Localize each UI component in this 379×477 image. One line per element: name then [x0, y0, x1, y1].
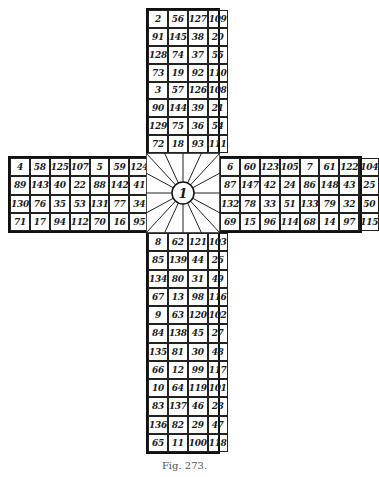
- board-square: 105: [280, 158, 300, 176]
- board-square: 7: [300, 158, 320, 176]
- board-square: 15: [240, 213, 260, 231]
- board-square: 111: [208, 135, 228, 153]
- board-square: 9: [148, 306, 168, 324]
- board-square: 42: [260, 176, 280, 194]
- board-square: 28: [208, 397, 228, 415]
- board-square: 115: [359, 213, 379, 231]
- board-square: 110: [208, 64, 228, 82]
- figure-caption: Fig. 273.: [0, 460, 369, 471]
- board-square: 123: [260, 158, 280, 176]
- board-square: 92: [188, 64, 208, 82]
- board-square: 61: [319, 158, 339, 176]
- board-square: 126: [188, 82, 208, 100]
- board-square: 121: [188, 233, 208, 251]
- board-square: 71: [10, 213, 30, 231]
- board-square: 84: [148, 324, 168, 342]
- center-number-label: 1: [146, 153, 220, 233]
- board-square: 27: [208, 324, 228, 342]
- board-square: 60: [240, 158, 260, 176]
- board-square: 24: [280, 176, 300, 194]
- board-square: 72: [148, 135, 168, 153]
- board-square: 128: [148, 46, 168, 64]
- board-square: 37: [188, 46, 208, 64]
- board-square: 68: [300, 213, 320, 231]
- board-square: 53: [70, 195, 90, 213]
- board-arm-top: 2561271099114538201287437557319921103571…: [146, 8, 220, 155]
- board-square: 63: [168, 306, 188, 324]
- board-square: 108: [208, 82, 228, 100]
- board-square: 69: [220, 213, 240, 231]
- board-arm-left: 4581251075591241068914340228814241231307…: [8, 156, 148, 233]
- board-square: 3: [148, 82, 168, 100]
- board-square: 64: [168, 379, 188, 397]
- board-square: 51: [280, 195, 300, 213]
- board-square: 133: [300, 195, 320, 213]
- board-square: 74: [168, 46, 188, 64]
- board-square: 99: [188, 361, 208, 379]
- board-square: 25: [359, 176, 379, 194]
- board-square: 116: [208, 288, 228, 306]
- board-square: 86: [300, 176, 320, 194]
- board-square: 143: [30, 176, 50, 194]
- board-square: 91: [148, 28, 168, 46]
- board-square: 103: [208, 233, 228, 251]
- board-square: 83: [148, 397, 168, 415]
- board-square: 85: [148, 251, 168, 269]
- board-arm-right: 6601231057611221048714742248614843251327…: [218, 156, 362, 233]
- board-square: 57: [168, 82, 188, 100]
- board-square: 6: [220, 158, 240, 176]
- board-square: 20: [208, 28, 228, 46]
- board-square: 67: [148, 288, 168, 306]
- board-square: 97: [339, 213, 359, 231]
- board-square: 125: [50, 158, 70, 176]
- board-square: 119: [188, 379, 208, 397]
- board-square: 98: [188, 288, 208, 306]
- board-square: 65: [148, 434, 168, 452]
- board-square: 109: [208, 10, 228, 28]
- board-square: 130: [10, 195, 30, 213]
- board-square: 39: [188, 99, 208, 117]
- board-square: 50: [359, 195, 379, 213]
- board-square: 45: [188, 324, 208, 342]
- board-square: 129: [148, 117, 168, 135]
- board-square: 148: [319, 176, 339, 194]
- board-arm-bottom: 8621211038513944261348031496713981169631…: [146, 231, 220, 454]
- board-square: 120: [188, 306, 208, 324]
- board-square: 48: [208, 343, 228, 361]
- board-square: 70: [90, 213, 110, 231]
- board-square: 114: [280, 213, 300, 231]
- board-square: 47: [208, 416, 228, 434]
- board-square: 19: [168, 64, 188, 82]
- board-square: 142: [109, 176, 129, 194]
- board-square: 137: [168, 397, 188, 415]
- board-square: 58: [30, 158, 50, 176]
- board-square: 102: [208, 306, 228, 324]
- board-square: 12: [168, 361, 188, 379]
- board-square: 26: [208, 251, 228, 269]
- board-square: 112: [70, 213, 90, 231]
- board-square: 22: [70, 176, 90, 194]
- board-square: 4: [10, 158, 30, 176]
- board-square: 18: [168, 135, 188, 153]
- board-square: 40: [50, 176, 70, 194]
- board-square: 89: [10, 176, 30, 194]
- board-square: 43: [339, 176, 359, 194]
- board-square: 59: [109, 158, 129, 176]
- board-square: 66: [148, 361, 168, 379]
- board-square: 75: [168, 117, 188, 135]
- board-square: 145: [168, 28, 188, 46]
- board-square: 44: [188, 251, 208, 269]
- board-square: 147: [240, 176, 260, 194]
- board-square: 8: [148, 233, 168, 251]
- board-square: 46: [188, 397, 208, 415]
- board-square: 17: [30, 213, 50, 231]
- board-square: 131: [90, 195, 110, 213]
- board-square: 2: [148, 10, 168, 28]
- board-square: 30: [188, 343, 208, 361]
- board-square: 5: [90, 158, 110, 176]
- board-square: 82: [168, 416, 188, 434]
- board-square: 35: [50, 195, 70, 213]
- board-square: 87: [220, 176, 240, 194]
- board-square: 16: [109, 213, 129, 231]
- board-square: 38: [188, 28, 208, 46]
